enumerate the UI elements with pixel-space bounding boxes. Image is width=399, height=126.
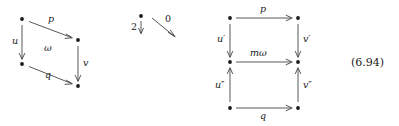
arrow-p-right-diagram	[236, 15, 292, 20]
label-arrow-p-left: p	[48, 14, 54, 24]
node-right-mid-right	[296, 60, 300, 64]
node-right-bottom-right	[296, 106, 300, 110]
arrow-2-middle-fragment	[139, 21, 144, 34]
arrow-uprime-right-diagram	[227, 24, 232, 57]
node-right-bottom-left	[228, 106, 232, 110]
arrow-0-middle-fragment	[152, 18, 175, 37]
arrow-vprime-right-diagram	[295, 24, 300, 57]
label-arrow-q-left: q	[45, 70, 51, 80]
arrow-momega-right-diagram	[236, 59, 292, 64]
arrow-vdprime-right-diagram	[295, 68, 300, 102]
arrow-u-left-diagram	[19, 25, 24, 59]
node-top-right	[76, 38, 80, 42]
node-bottom-right	[76, 84, 80, 88]
label-arrow-p-right: p	[260, 4, 266, 14]
arrow-v-left-diagram	[75, 46, 80, 81]
label-arrow-udprime-right: u″	[215, 80, 225, 90]
node-right-top-right	[296, 16, 300, 20]
commutative-diagram-figure: p u v q ω 2 0 p mω q u′ u″ v′ v″ (6.94)	[0, 0, 399, 126]
label-middle-vertical-2: 2	[131, 22, 137, 32]
label-arrow-vdprime-right: v″	[303, 80, 312, 90]
label-arrow-v-left: v	[83, 58, 88, 68]
label-arrow-momega-right: mω	[250, 48, 267, 58]
node-right-top-left	[228, 16, 232, 20]
diagram-vector-layer	[0, 0, 399, 126]
right-diagram-group	[227, 15, 300, 110]
node-right-mid-left	[228, 60, 232, 64]
node-bottom-left	[20, 62, 24, 66]
label-arrow-vprime-right: v′	[303, 34, 311, 44]
label-omega-center: ω	[44, 43, 52, 53]
node-top-left	[20, 17, 24, 21]
node-middle-fragment	[139, 14, 143, 18]
equation-number: (6.94)	[351, 57, 384, 68]
label-arrow-u-left: u	[12, 36, 18, 46]
arrow-udprime-right-diagram	[227, 68, 232, 102]
label-arrow-q-right: q	[260, 111, 266, 121]
label-middle-diagonal-0: 0	[165, 14, 171, 24]
label-arrow-uprime-right: u′	[217, 34, 225, 44]
arrow-p-left-diagram	[29, 22, 72, 39]
